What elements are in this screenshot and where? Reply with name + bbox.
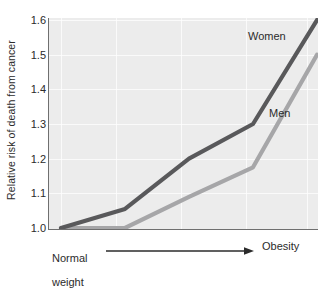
y-tick-1-5: 1.5 [12, 49, 46, 61]
x-axis-end-label: Obesity [262, 240, 299, 252]
x-axis-start-label-line1: Normal [52, 252, 87, 264]
y-axis-tick-labels: 1.6 1.5 1.4 1.3 1.2 1.1 1.0 [8, 0, 46, 273]
plot-area [48, 18, 318, 230]
series-lines [49, 18, 318, 229]
x-axis-arrow-icon [106, 246, 254, 256]
women-series-label: Women [248, 30, 286, 42]
y-tick-1-4: 1.4 [12, 83, 46, 95]
plot-inner [49, 18, 318, 229]
y-tick-1-0: 1.0 [12, 222, 46, 234]
y-tick-1-6: 1.6 [12, 14, 46, 26]
y-tick-1-2: 1.2 [12, 153, 46, 165]
men-series-label: Men [269, 107, 290, 119]
x-axis-start-label-line2: weight [52, 276, 87, 288]
y-tick-1-3: 1.3 [12, 118, 46, 130]
x-axis-start-label: Normal weight [52, 240, 87, 292]
y-tick-1-1: 1.1 [12, 187, 46, 199]
